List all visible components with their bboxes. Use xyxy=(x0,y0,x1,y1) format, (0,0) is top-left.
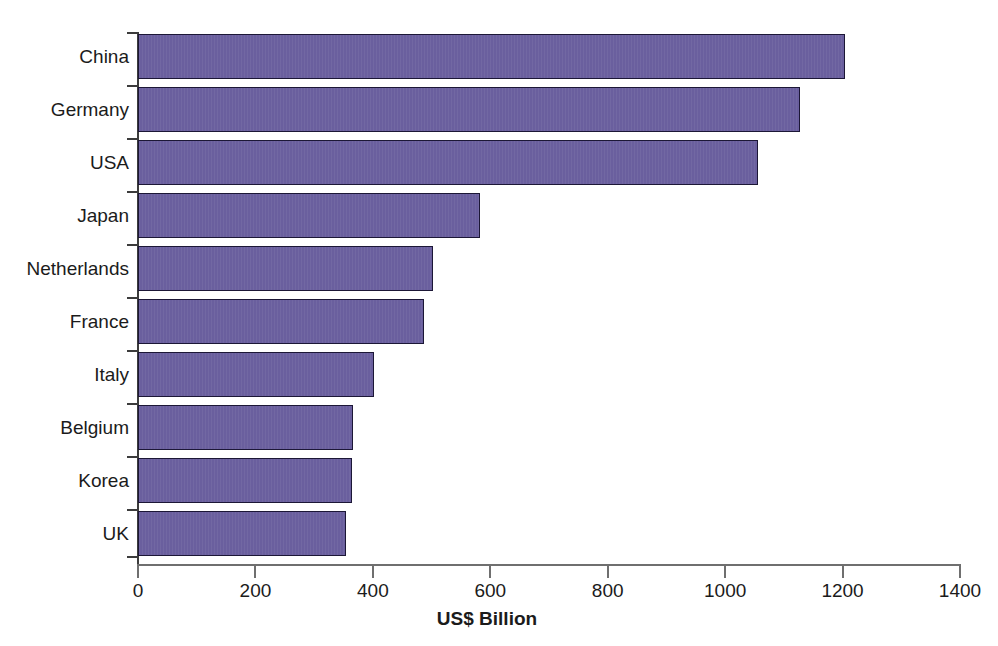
bar-row: Korea xyxy=(0,458,998,503)
x-tick-label: 200 xyxy=(240,580,272,602)
y-tick xyxy=(127,85,138,87)
bar[interactable] xyxy=(138,246,433,291)
x-axis-line xyxy=(137,564,961,566)
bar[interactable] xyxy=(138,511,346,556)
x-axis-title-text: US$ Billion xyxy=(437,608,537,630)
bar[interactable] xyxy=(138,458,352,503)
y-tick xyxy=(127,403,138,405)
bar-category-label: UK xyxy=(7,511,137,556)
bar[interactable] xyxy=(138,405,353,450)
x-tick xyxy=(959,566,961,578)
x-axis-title: US$ Billion xyxy=(0,608,998,630)
bar-category-label: Japan xyxy=(7,193,137,238)
bar-row: Netherlands xyxy=(0,246,998,291)
x-tick-label: 0 xyxy=(133,580,144,602)
bar[interactable] xyxy=(138,352,374,397)
x-tick-label: 400 xyxy=(357,580,389,602)
y-tick xyxy=(127,138,138,140)
bar-row: Belgium xyxy=(0,405,998,450)
x-tick xyxy=(607,566,609,578)
bar-category-label: Netherlands xyxy=(7,246,137,291)
bar[interactable] xyxy=(138,193,480,238)
bar-row: China xyxy=(0,34,998,79)
x-tick-label: 1000 xyxy=(704,580,746,602)
bar[interactable] xyxy=(138,34,845,79)
bar-row: USA xyxy=(0,140,998,185)
bar[interactable] xyxy=(138,87,800,132)
bar-category-label: Germany xyxy=(7,87,137,132)
y-tick xyxy=(127,297,138,299)
x-tick xyxy=(254,566,256,578)
x-tick-label: 1200 xyxy=(821,580,863,602)
bar-category-label: Korea xyxy=(7,458,137,503)
x-tick xyxy=(842,566,844,578)
y-tick xyxy=(127,32,138,34)
bar-row: France xyxy=(0,299,998,344)
y-tick xyxy=(127,244,138,246)
plot-area: ChinaGermanyUSAJapanNetherlandsFranceIta… xyxy=(0,0,998,646)
x-tick xyxy=(137,566,139,578)
x-tick-label: 600 xyxy=(474,580,506,602)
x-tick xyxy=(724,566,726,578)
bar-row: Italy xyxy=(0,352,998,397)
x-tick-label: 800 xyxy=(592,580,624,602)
y-tick xyxy=(127,509,138,511)
bar-row: Germany xyxy=(0,87,998,132)
bar-category-label: Italy xyxy=(7,352,137,397)
bar[interactable] xyxy=(138,299,424,344)
x-tick-label: 1400 xyxy=(939,580,981,602)
y-tick xyxy=(127,456,138,458)
bar-category-label: USA xyxy=(7,140,137,185)
y-tick xyxy=(127,556,138,558)
bar-row: UK xyxy=(0,511,998,556)
bar-category-label: China xyxy=(7,34,137,79)
x-tick xyxy=(372,566,374,578)
x-tick xyxy=(489,566,491,578)
bar-category-label: France xyxy=(7,299,137,344)
bar[interactable] xyxy=(138,140,758,185)
y-tick xyxy=(127,350,138,352)
bar-row: Japan xyxy=(0,193,998,238)
bar-category-label: Belgium xyxy=(7,405,137,450)
y-tick xyxy=(127,191,138,193)
